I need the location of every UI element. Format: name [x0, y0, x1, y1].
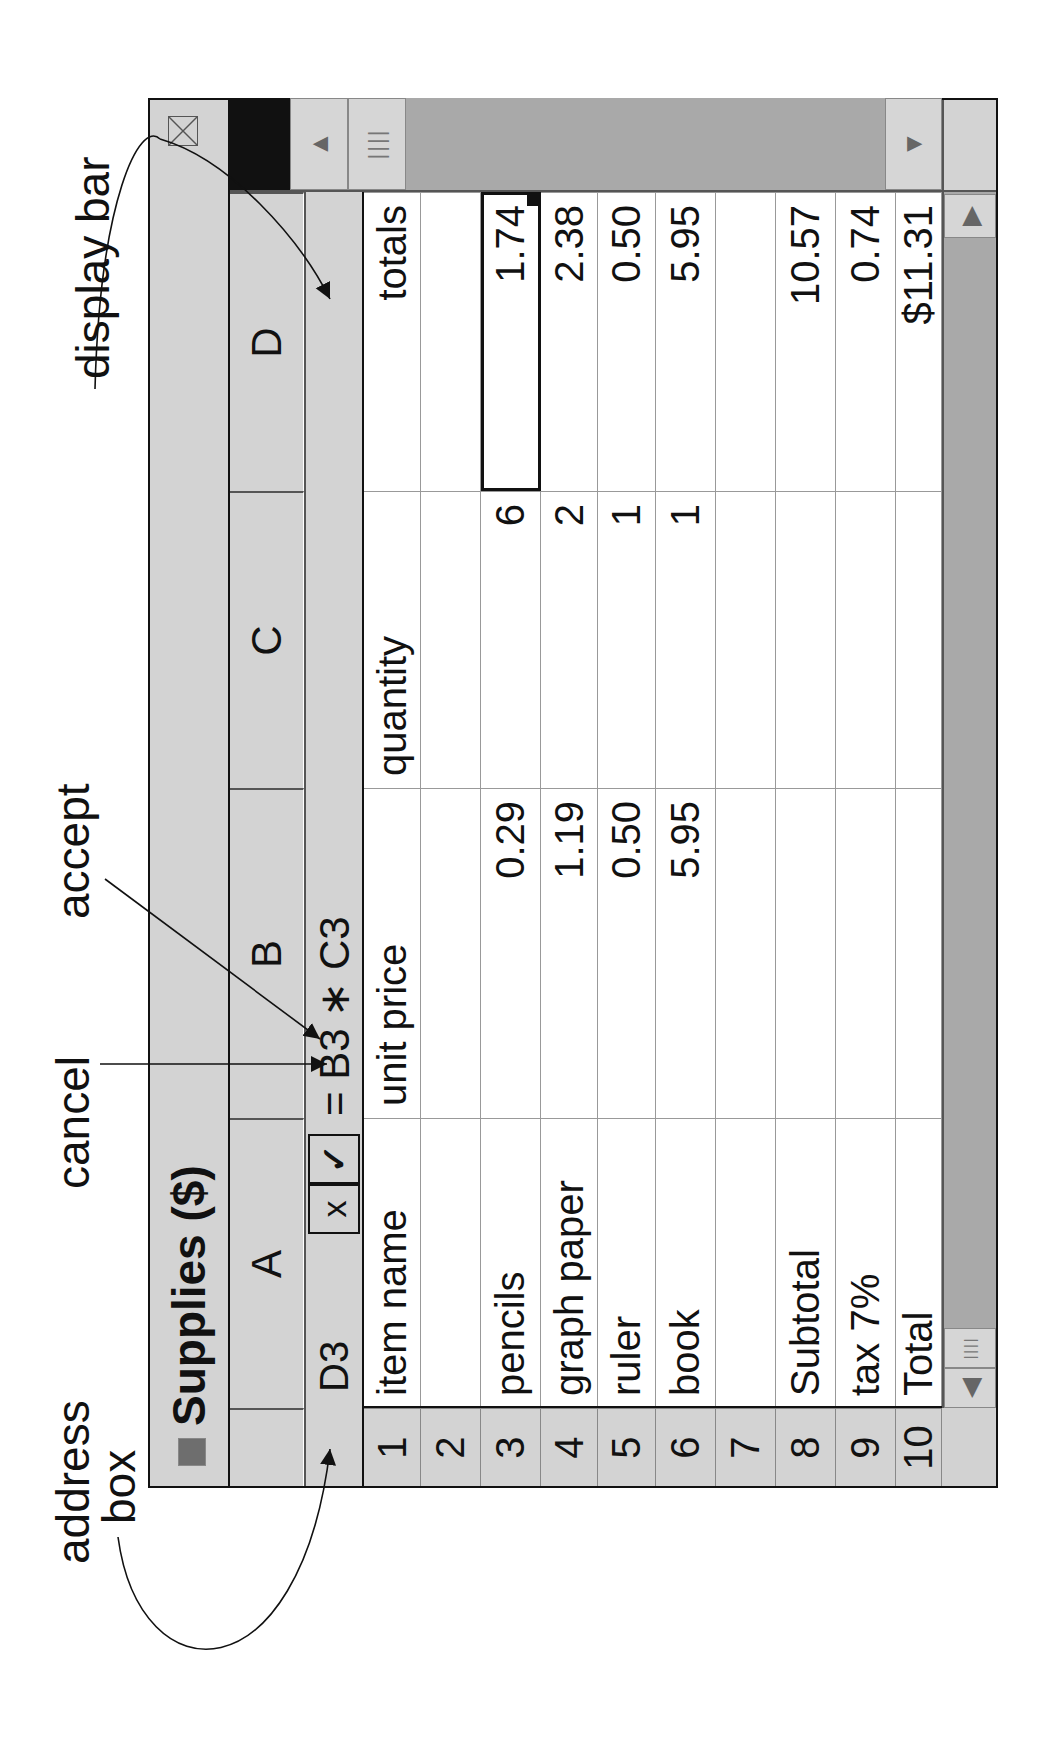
cell-d6[interactable]: 5.95	[656, 192, 716, 491]
annotation-address-box: address box	[50, 1400, 142, 1564]
row-header-7[interactable]: 7	[716, 1408, 776, 1486]
cell-a7[interactable]	[716, 1118, 776, 1408]
cell-b4[interactable]: 1.19	[541, 788, 598, 1118]
row-header-10[interactable]: 10	[896, 1408, 942, 1486]
spreadsheet-window: Supplies ($) A B C D D3 x ✓ = B3 ∗ C3 1i…	[148, 98, 998, 1488]
scroll-right-button[interactable]: ▶	[944, 194, 996, 238]
cell-c9[interactable]	[836, 491, 896, 788]
annotation-display-bar: display bar	[70, 157, 116, 379]
window-menu-icon[interactable]	[178, 1438, 206, 1466]
cell-d5[interactable]: 0.50	[598, 192, 656, 491]
cell-b3[interactable]: 0.29	[481, 788, 541, 1118]
column-header-b[interactable]: B	[230, 788, 304, 1118]
cell-c10[interactable]	[896, 491, 942, 788]
cell-a8[interactable]: Subtotal	[776, 1118, 836, 1408]
cell-b6[interactable]: 5.95	[656, 788, 716, 1118]
row-header-1[interactable]: 1	[364, 1408, 421, 1486]
cell-d8[interactable]: 10.57	[776, 192, 836, 491]
arrow-right-icon: ▶	[955, 206, 986, 226]
corner-header[interactable]	[230, 1408, 304, 1486]
cell-b1[interactable]: unit price	[364, 788, 421, 1118]
row-header-divider	[364, 1406, 942, 1408]
close-box-icon[interactable]	[168, 116, 198, 146]
cell-a6[interactable]: book	[656, 1118, 716, 1408]
annotation-accept: accept	[50, 783, 96, 919]
cell-grid: 1item nameunit pricequantitytotals23penc…	[364, 192, 942, 1486]
cell-c3[interactable]: 6	[481, 491, 541, 788]
cell-a3[interactable]: pencils	[481, 1118, 541, 1408]
cancel-button[interactable]: x	[308, 1184, 360, 1234]
cell-b2[interactable]	[421, 788, 481, 1118]
scroll-down-button[interactable]: ▼	[885, 98, 942, 190]
scroll-left-button[interactable]: ◀	[944, 1368, 996, 1408]
cell-b7[interactable]	[716, 788, 776, 1118]
arrow-down-icon: ▼	[898, 131, 929, 157]
cell-c6[interactable]: 1	[656, 491, 716, 788]
column-header-a[interactable]: A	[230, 1118, 304, 1408]
grip-icon: ||||	[364, 129, 390, 160]
cell-d1[interactable]: totals	[364, 192, 421, 491]
cell-c7[interactable]	[716, 491, 776, 788]
cell-b9[interactable]	[836, 788, 896, 1118]
row-header-8[interactable]: 8	[776, 1408, 836, 1486]
cell-d7[interactable]	[716, 192, 776, 491]
fill-handle[interactable]	[527, 192, 541, 206]
cell-a10[interactable]: Total	[896, 1118, 942, 1408]
address-box[interactable]: D3	[304, 1286, 364, 1406]
cell-a1[interactable]: item name	[364, 1118, 421, 1408]
cell-b10[interactable]	[896, 788, 942, 1118]
cell-a2[interactable]	[421, 1118, 481, 1408]
annotation-address-line1: address	[50, 1400, 96, 1564]
cell-d9[interactable]: 0.74	[836, 192, 896, 491]
arrow-up-icon: ▲	[304, 131, 335, 157]
grip-icon: ||||	[962, 1337, 978, 1360]
title-bar[interactable]: Supplies ($)	[150, 100, 230, 1486]
row-header-6[interactable]: 6	[656, 1408, 716, 1486]
cell-c1[interactable]: quantity	[364, 491, 421, 788]
horizontal-scroll-thumb[interactable]: ||||	[944, 1328, 996, 1368]
annotation-address-line2: box	[96, 1400, 142, 1564]
diagram-stage: address box cancel accept display bar Su…	[0, 0, 1037, 1759]
cell-b8[interactable]	[776, 788, 836, 1118]
cell-a4[interactable]: graph paper	[541, 1118, 598, 1408]
scroll-up-button[interactable]: ▲	[290, 98, 348, 190]
row-header-3[interactable]: 3	[481, 1408, 541, 1486]
accept-button[interactable]: ✓	[308, 1134, 360, 1184]
selected-cell-outline	[481, 192, 541, 491]
column-header-c[interactable]: C	[230, 491, 304, 788]
scroll-corner-block	[230, 98, 290, 190]
annotation-cancel: cancel	[50, 1056, 96, 1189]
cell-d4[interactable]: 2.38	[541, 192, 598, 491]
row-header-5[interactable]: 5	[598, 1408, 656, 1486]
horizontal-scrollbar[interactable]: ◀ |||| ▶	[942, 192, 996, 1408]
cell-c5[interactable]: 1	[598, 491, 656, 788]
row-header-9[interactable]: 9	[836, 1408, 896, 1486]
cell-c4[interactable]: 2	[541, 491, 598, 788]
cell-d2[interactable]	[421, 192, 481, 491]
cell-c2[interactable]	[421, 491, 481, 788]
row-header-2[interactable]: 2	[421, 1408, 481, 1486]
arrow-left-icon: ◀	[955, 1378, 986, 1398]
vertical-scrollbar[interactable]: ▲ |||| ▼	[230, 98, 942, 192]
vertical-scroll-thumb[interactable]: ||||	[348, 98, 406, 190]
cell-d10[interactable]: $11.31	[896, 192, 942, 491]
size-box[interactable]	[942, 100, 996, 192]
cell-a5[interactable]: ruler	[598, 1118, 656, 1408]
cell-b5[interactable]: 0.50	[598, 788, 656, 1118]
row-header-4[interactable]: 4	[541, 1408, 598, 1486]
column-header-d[interactable]: D	[230, 192, 304, 491]
cell-a9[interactable]: tax 7%	[836, 1118, 896, 1408]
formula-text[interactable]: = B3 ∗ C3	[304, 916, 364, 1116]
cell-c8[interactable]	[776, 491, 836, 788]
window-title: Supplies ($)	[162, 1165, 216, 1426]
